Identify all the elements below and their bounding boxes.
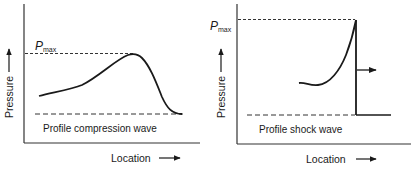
pmax-label: Pmax (210, 19, 232, 33)
compression-wave-curve (39, 54, 182, 114)
panel-caption: Profile compression wave (43, 123, 157, 134)
x-axis-label: Location (111, 152, 151, 164)
shock-wave-curve (299, 20, 356, 85)
shock-wave-panel: Pmax Profile shock wave Pressure Locatio… (210, 4, 411, 165)
y-axis-label: Pressure (215, 76, 227, 118)
y-axis-label: Pressure (3, 76, 15, 118)
diagram-canvas: Pmax Profile compression wave Pressure L… (0, 0, 412, 170)
pmax-label: Pmax (35, 39, 57, 53)
x-axis-label: Location (306, 153, 346, 165)
compression-wave-panel: Pmax Profile compression wave Pressure L… (3, 4, 200, 164)
panel-caption: Profile shock wave (259, 124, 343, 135)
